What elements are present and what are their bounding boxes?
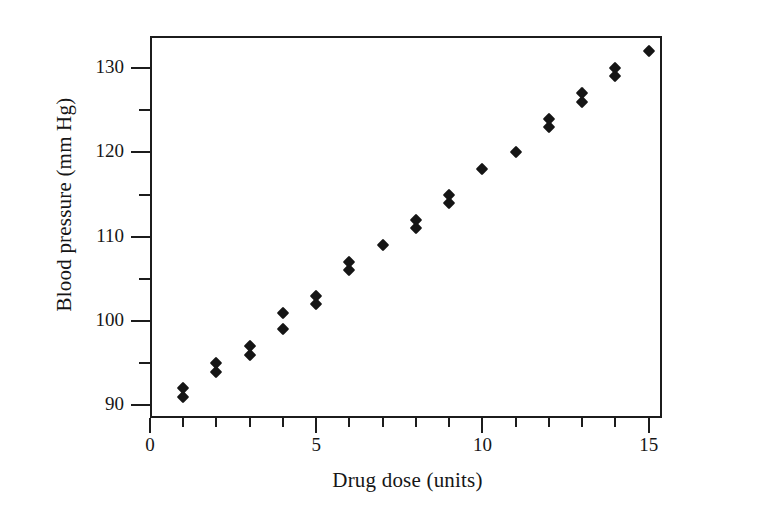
x-tick-label: 15 [619,434,679,456]
scatter-plot-figure: Blood pressure (mm Hg) 90100110120130051… [0,0,757,523]
x-tick-minor [415,418,417,427]
y-tick-major [131,320,150,322]
y-tick-minor [139,278,150,280]
y-tick-minor [139,362,150,364]
x-tick-label: 5 [286,434,346,456]
y-tick-major [131,404,150,406]
x-tick-major [648,418,650,433]
x-tick-minor [348,418,350,427]
y-tick-major [131,67,150,69]
x-tick-minor [282,418,284,427]
x-tick-major [315,418,317,433]
x-tick-minor [382,418,384,427]
x-tick-label: 0 [120,434,180,456]
y-tick-major [131,151,150,153]
x-tick-minor [215,418,217,427]
y-tick-label: 110 [64,225,124,247]
y-tick-label: 90 [64,393,124,415]
y-tick-major [131,236,150,238]
plot-frame [150,36,662,418]
x-tick-minor [515,418,517,427]
x-tick-minor [581,418,583,427]
x-tick-major [481,418,483,433]
y-tick-minor [139,109,150,111]
y-tick-minor [139,194,150,196]
x-tick-minor [614,418,616,427]
x-tick-minor [548,418,550,427]
x-tick-minor [249,418,251,427]
y-tick-label: 100 [64,309,124,331]
x-tick-major [149,418,151,433]
x-tick-label: 10 [452,434,512,456]
y-tick-label: 130 [64,56,124,78]
x-axis-title: Drug dose (units) [150,468,665,493]
y-tick-label: 120 [64,140,124,162]
x-tick-minor [182,418,184,427]
x-tick-minor [448,418,450,427]
